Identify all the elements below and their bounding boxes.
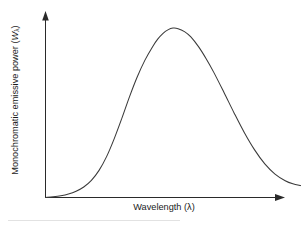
plot-canvas (0, 0, 307, 225)
y-axis-label-rotated: Monochromatic emissive power (Wλ) (10, 25, 22, 174)
y-axis-label-symbol: W (10, 32, 20, 41)
figure-root: Wavelength (λ) Monochromatic emissive po… (0, 0, 307, 225)
y-axis-label: Monochromatic emissive power (Wλ) (0, 0, 32, 200)
y-axis-arrowhead (42, 11, 49, 21)
y-axis-label-subscript: λ (13, 28, 20, 31)
y-axis-label-prefix: Monochromatic emissive power ( (10, 40, 20, 174)
x-axis-label-text: Wavelength (λ) (133, 202, 194, 212)
y-axis-label-suffix: ) (10, 25, 20, 28)
x-axis-label: Wavelength (λ) (45, 201, 283, 213)
x-axis-arrowhead (275, 194, 285, 201)
emissive-power-curve (46, 28, 301, 197)
